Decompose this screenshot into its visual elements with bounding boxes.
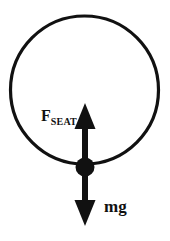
point-mass <box>76 158 95 177</box>
diagram-canvas <box>0 0 170 241</box>
fseat-arrow-head <box>75 103 96 129</box>
mg-arrow-head <box>75 200 96 226</box>
free-body-diagram: FSEAT mg <box>0 0 170 241</box>
